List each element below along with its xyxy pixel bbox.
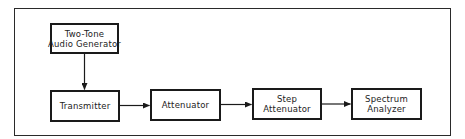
- block-label: Attenuator: [162, 100, 210, 110]
- spectrum-analyzer-block: Spectrum Analyzer: [351, 88, 422, 120]
- block-label-line-1: Two-Tone: [65, 29, 105, 39]
- block-label-line-1: Step: [277, 94, 297, 104]
- step-attenuator-block: Step Attenuator: [252, 88, 322, 120]
- transmitter-block: Transmitter: [50, 90, 120, 122]
- block-label-line-1: Spectrum: [365, 94, 408, 104]
- block-label: Transmitter: [60, 101, 111, 111]
- block-label-line-2: Attenuator: [263, 104, 311, 114]
- attenuator-block: Attenuator: [150, 89, 221, 121]
- block-label-line-2: Audio Generator: [48, 39, 121, 49]
- two-tone-audio-generator-block: Two-Tone Audio Generator: [50, 23, 119, 54]
- block-label-line-2: Analyzer: [367, 104, 406, 114]
